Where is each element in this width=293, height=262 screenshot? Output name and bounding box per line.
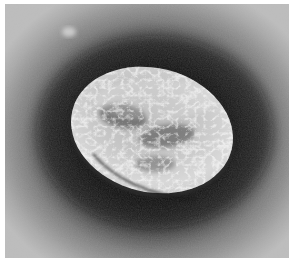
micrograph-canvas (5, 4, 289, 258)
micrograph-frame (0, 0, 293, 262)
electron-micrograph (5, 4, 289, 258)
surface-highlight (95, 80, 215, 120)
